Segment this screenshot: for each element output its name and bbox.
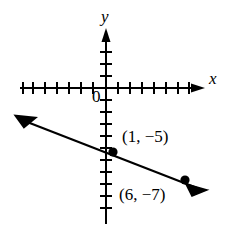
plotted-point-2 [180, 175, 189, 184]
x-axis-arrowhead [191, 84, 205, 93]
line-arrowhead-right [186, 184, 207, 196]
point-label-2: (6, −7) [119, 186, 165, 203]
graph-canvas [0, 0, 227, 234]
coordinate-plane-figure: y x 0 (1, −5) (6, −7) [0, 0, 227, 234]
point-label-1: (1, −5) [122, 128, 168, 145]
y-axis-label: y [101, 8, 109, 25]
x-axis [20, 82, 205, 94]
y-axis [100, 28, 112, 224]
y-axis-arrowhead [102, 28, 111, 42]
line-arrowhead-left [16, 116, 35, 127]
origin-label: 0 [92, 88, 101, 105]
x-axis-label: x [209, 70, 217, 87]
plotted-point-1 [108, 147, 117, 156]
